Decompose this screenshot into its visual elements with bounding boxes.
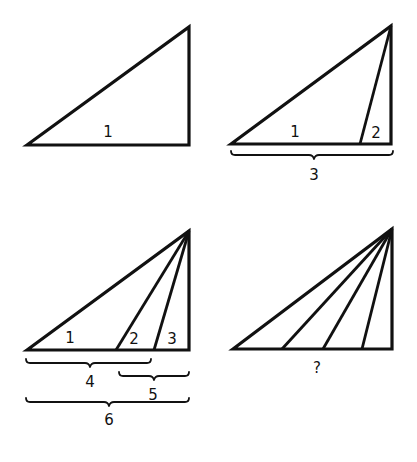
brace: [119, 372, 189, 380]
divider-line: [323, 229, 392, 349]
triangle-label: 3: [167, 330, 177, 348]
panel-3: 1 2 3 4 5 6: [26, 231, 189, 429]
triangle-label: 1: [103, 123, 113, 141]
triangle-counting-diagram: 1 1 2 3 1 2 3 4 5 6 ?: [0, 0, 417, 462]
panel-4: ?: [233, 229, 392, 377]
panel-2: 1 2 3: [231, 26, 393, 184]
brace: [26, 398, 189, 406]
brace-label: 4: [85, 373, 95, 391]
triangle-outline: [27, 231, 189, 350]
divider-line: [282, 229, 392, 349]
triangle-label: 2: [371, 124, 381, 142]
triangle-label: 1: [65, 329, 75, 347]
triangle-label: 1: [290, 123, 300, 141]
brace-label: 6: [104, 411, 114, 429]
question-label: ?: [313, 359, 321, 377]
brace-label: 3: [309, 166, 319, 184]
divider-line: [116, 231, 189, 350]
panel-1: 1: [27, 27, 189, 145]
triangle-outline: [231, 26, 391, 144]
brace: [231, 151, 393, 159]
triangle-outline: [233, 229, 392, 349]
triangle-label: 2: [129, 330, 139, 348]
brace: [26, 359, 151, 367]
